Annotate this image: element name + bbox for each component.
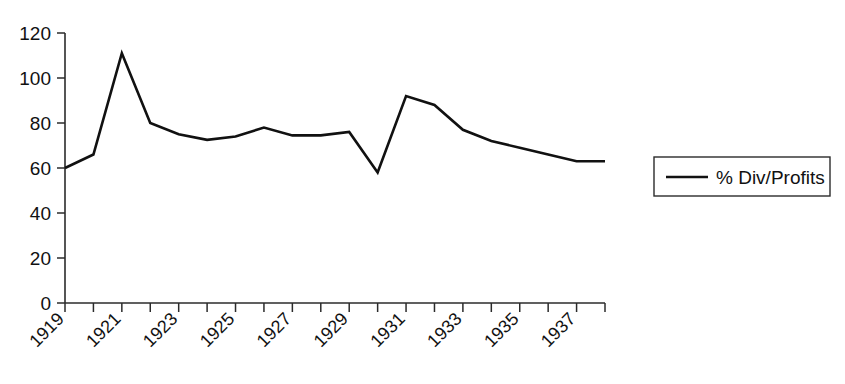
x-tick-label-1935: 1935: [480, 309, 522, 351]
y-tick-label-120: 120: [19, 23, 51, 44]
x-tick-label-1937: 1937: [537, 309, 579, 351]
legend-label-div-profits: % Div/Profits: [716, 167, 825, 188]
x-tick-label-1919: 1919: [25, 309, 67, 351]
x-tick-label-1931: 1931: [366, 309, 408, 351]
series-group: [65, 53, 605, 172]
x-tick-label-1927: 1927: [253, 309, 295, 351]
y-axis-ticks: 120 100 80 60 40 20 0: [19, 23, 65, 314]
y-tick-label-40: 40: [30, 203, 51, 224]
x-tick-label-1929: 1929: [310, 309, 352, 351]
x-axis-labels: 1919192119231925192719291931193319351937: [25, 309, 579, 351]
line-chart: 120 100 80 60 40 20 0 191919211923192519…: [0, 0, 845, 384]
x-tick-label-1933: 1933: [423, 309, 465, 351]
x-tick-label-1921: 1921: [82, 309, 124, 351]
x-tick-label-1925: 1925: [196, 309, 238, 351]
series-line-div-profits: [65, 53, 605, 172]
y-tick-label-80: 80: [30, 113, 51, 134]
y-tick-label-20: 20: [30, 248, 51, 269]
x-tick-label-1923: 1923: [139, 309, 181, 351]
chart-legend: % Div/Profits: [654, 157, 830, 196]
y-tick-label-100: 100: [19, 68, 51, 89]
y-tick-label-0: 0: [40, 293, 51, 314]
chart-figure: 120 100 80 60 40 20 0 191919211923192519…: [0, 0, 845, 384]
y-tick-label-60: 60: [30, 158, 51, 179]
